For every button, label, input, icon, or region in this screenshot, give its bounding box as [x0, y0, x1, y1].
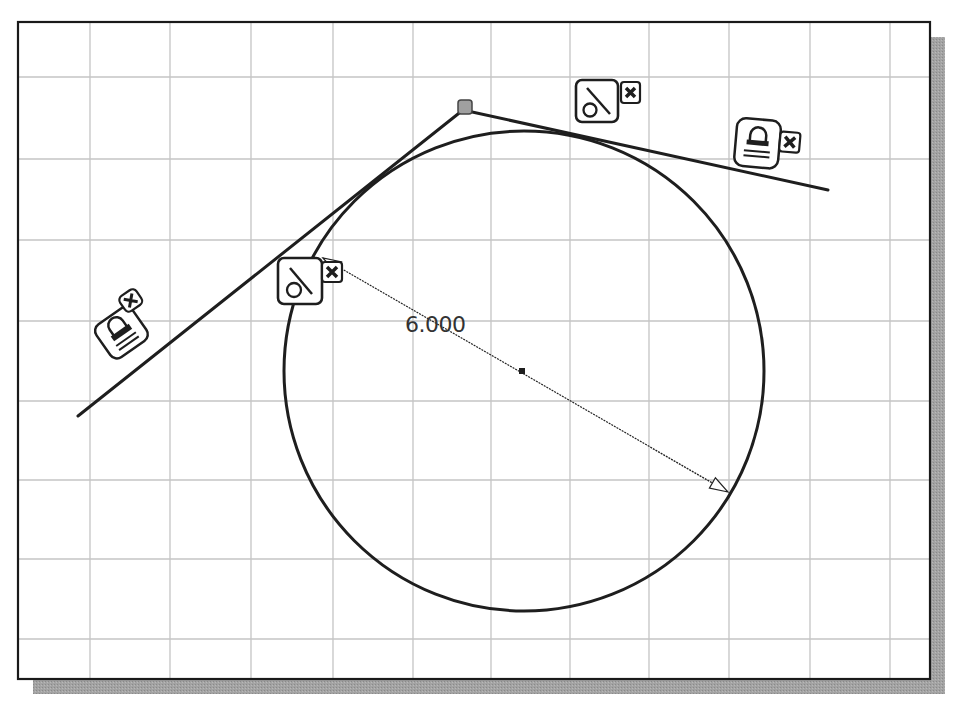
sketch-frame [18, 22, 930, 679]
vertex-point[interactable] [458, 100, 472, 114]
tangent-icon [576, 80, 618, 122]
tangent-icon [278, 258, 322, 304]
delete-constraint-icon[interactable] [779, 131, 801, 153]
delete-constraint-icon[interactable] [322, 262, 342, 282]
dimension-value[interactable]: 6.000 [405, 312, 465, 337]
sketch-canvas[interactable]: 6.000 [0, 0, 958, 704]
lock-icon [734, 117, 782, 169]
delete-constraint-icon[interactable] [621, 82, 640, 103]
